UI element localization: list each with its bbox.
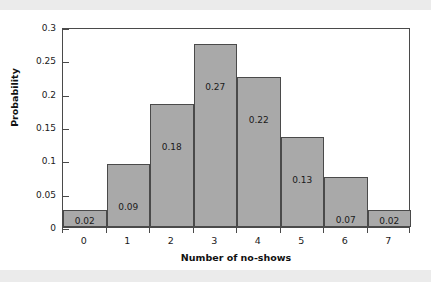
bar-value-label: 0.09	[107, 202, 151, 212]
bar-value-label: 0.13	[281, 175, 325, 185]
x-axis-tick	[62, 228, 63, 233]
y-axis-tick-label: 0.1	[42, 156, 56, 166]
x-axis-tick	[236, 228, 237, 233]
y-axis-tick	[63, 29, 69, 30]
x-axis-tick	[280, 228, 281, 233]
bar	[194, 44, 238, 227]
bar-value-label: 0.07	[324, 215, 368, 225]
x-axis-tick-label: 0	[62, 235, 106, 247]
x-axis-tick	[106, 228, 107, 233]
histogram-figure: Probability 00.050.10.150.20.250.3 0.020…	[0, 0, 431, 282]
x-axis-title: Number of no-shows	[62, 252, 410, 263]
bar	[150, 104, 194, 227]
y-axis-tick-label: 0.05	[36, 190, 56, 200]
x-axis-tick	[323, 228, 324, 233]
plot-frame: 0.020.090.180.270.220.130.070.02	[62, 28, 410, 228]
x-axis-tick	[367, 228, 368, 233]
top-margin-band	[0, 0, 431, 10]
y-axis-tick-label: 0.2	[42, 90, 56, 100]
x-axis-ticks	[62, 228, 410, 234]
x-axis-tick-label: 7	[367, 235, 411, 247]
y-axis-tick-label: 0	[50, 223, 56, 233]
y-axis-tick	[63, 129, 69, 130]
x-axis-tick-label: 2	[149, 235, 193, 247]
x-axis-tick-labels: 01234567	[62, 235, 410, 249]
y-axis-tick	[63, 196, 69, 197]
y-axis-tick	[63, 162, 69, 163]
y-axis-tick-label: 0.15	[36, 123, 56, 133]
x-axis-tick	[149, 228, 150, 233]
y-axis-tick-labels: 00.050.10.150.20.250.3	[0, 28, 56, 228]
x-axis-tick	[409, 228, 410, 233]
bar-value-label: 0.02	[368, 216, 412, 226]
x-axis-tick	[193, 228, 194, 233]
y-axis-tick-label: 0.3	[42, 23, 56, 33]
x-axis-tick-label: 4	[236, 235, 280, 247]
y-axis-tick-label: 0.25	[36, 56, 56, 66]
bar-value-label: 0.18	[150, 142, 194, 152]
bar-value-label: 0.02	[63, 216, 107, 226]
bar	[107, 164, 151, 227]
bar-value-label: 0.27	[194, 82, 238, 92]
y-axis-tick	[63, 96, 69, 97]
x-axis-tick-label: 6	[323, 235, 367, 247]
bottom-margin-band	[0, 270, 431, 282]
x-axis-tick-label: 5	[280, 235, 324, 247]
y-axis-tick	[63, 62, 69, 63]
bar	[237, 77, 281, 227]
x-axis-tick-label: 3	[193, 235, 237, 247]
x-axis-tick-label: 1	[106, 235, 150, 247]
bar-value-label: 0.22	[237, 115, 281, 125]
plot-area: 0.020.090.180.270.220.130.070.02	[63, 29, 409, 227]
